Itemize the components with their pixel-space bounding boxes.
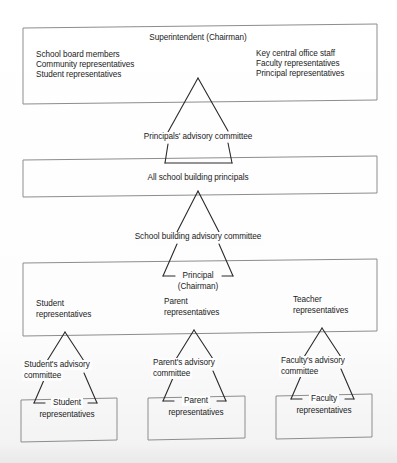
building-group-2-line1: Teacher	[293, 295, 322, 305]
parents-advisory-line2: committee	[151, 369, 192, 379]
parents-advisory-line1: Parent's advisory	[151, 358, 217, 368]
triangle-principals-advisory	[165, 78, 232, 163]
bottom-box-2-line2: representatives	[296, 406, 351, 416]
label-school-building-advisory-committee: School building advisory committee	[133, 232, 264, 242]
bottom-box-1-line1: Parent	[182, 396, 210, 406]
facultys-advisory-line1: Faculty's advisory	[279, 356, 347, 366]
all-principals-title: All school building principals	[146, 173, 251, 183]
bottom-box-0-line1: Student	[51, 398, 83, 408]
bottom-box-1-line2: representatives	[168, 408, 223, 418]
facultys-advisory-line2: committee	[279, 367, 320, 377]
students-advisory-line2: committee	[22, 371, 63, 381]
building-group-1-line1: Parent	[164, 297, 188, 307]
principal-label: Principal	[181, 271, 216, 281]
principal-chairman-label: (Chairman)	[178, 282, 218, 292]
superintendent-left-item-1: Community representatives	[36, 60, 134, 70]
superintendent-left-item-0: School board members	[36, 50, 120, 60]
building-group-0-line1: Student	[36, 299, 64, 309]
superintendent-right-item-2: Principal representatives	[256, 69, 344, 79]
superintendent-left-item-2: Student representatives	[36, 70, 121, 80]
bottom-box-2-line1: Faculty	[309, 394, 339, 404]
building-group-0-line2: representatives	[36, 310, 91, 320]
bottom-box-0-line2: representatives	[39, 410, 94, 420]
diagram-canvas: Superintendent (Chairman) School board m…	[0, 0, 397, 463]
building-group-1-line2: representatives	[164, 308, 219, 318]
label-principals-advisory-committee: Principals' advisory committee	[142, 132, 254, 142]
building-group-2-line2: representatives	[293, 306, 348, 316]
students-advisory-line1: Student's advisory	[22, 360, 92, 370]
superintendent-right-item-1: Faculty representatives	[256, 59, 340, 69]
superintendent-title: Superintendent (Chairman)	[149, 33, 247, 43]
superintendent-right-item-0: Key central office staff	[256, 49, 335, 59]
